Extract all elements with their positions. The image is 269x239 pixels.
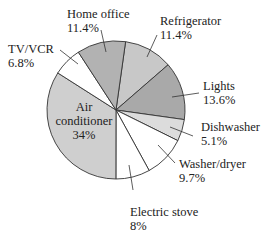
label-air-conditioner-name-2: conditioner (52, 114, 116, 128)
label-tv-vcr-pct: 6.8% (8, 56, 54, 70)
label-home-office-name: Home office (67, 7, 130, 21)
label-lights-pct: 13.6% (203, 93, 235, 107)
label-air-conditioner-name-1: Air (52, 100, 116, 114)
label-tv-vcr: TV/VCR 6.8% (8, 42, 54, 70)
label-washer-dryer: Washer/dryer 9.7% (179, 157, 246, 185)
label-refrigerator-name: Refrigerator (160, 14, 221, 28)
label-electric-stove-pct: 8% (130, 219, 198, 233)
label-tv-vcr-name: TV/VCR (8, 42, 54, 56)
label-lights: Lights 13.6% (203, 79, 235, 107)
label-electric-stove: Electric stove 8% (130, 205, 198, 233)
label-air-conditioner: Air conditioner 34% (52, 100, 116, 142)
label-dishwasher-name: Dishwasher (201, 120, 260, 134)
label-home-office-pct: 11.4% (67, 21, 130, 35)
label-dishwasher-pct: 5.1% (201, 134, 260, 148)
label-lights-name: Lights (203, 79, 235, 93)
label-home-office: Home office 11.4% (67, 7, 130, 35)
label-electric-stove-name: Electric stove (130, 205, 198, 219)
label-refrigerator: Refrigerator 11.4% (160, 14, 221, 42)
label-refrigerator-pct: 11.4% (160, 28, 221, 42)
label-washer-dryer-name: Washer/dryer (179, 157, 246, 171)
label-air-conditioner-pct: 34% (52, 128, 116, 142)
label-dishwasher: Dishwasher 5.1% (201, 120, 260, 148)
label-washer-dryer-pct: 9.7% (179, 171, 246, 185)
